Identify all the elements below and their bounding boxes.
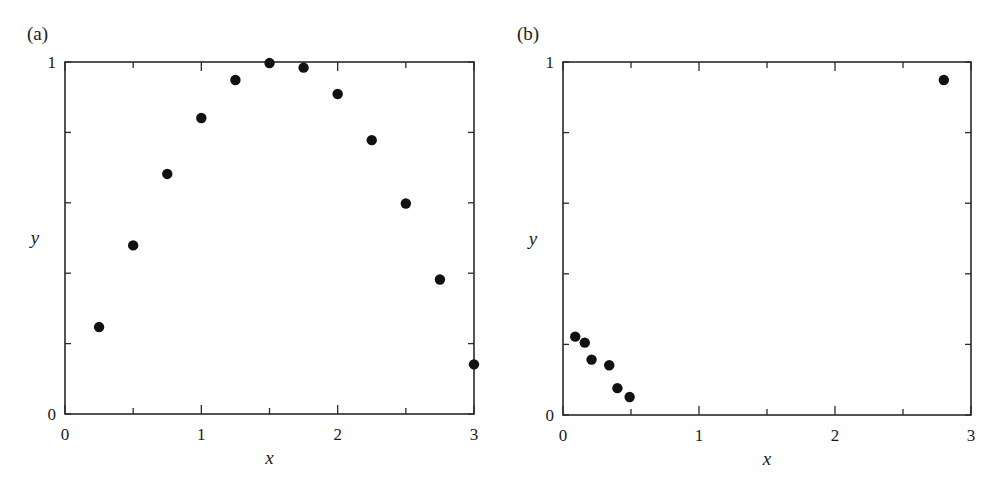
y-axis-label: y [527,228,538,249]
x-tick-label: 0 [559,426,568,445]
scatter-plot-a: 012301xy [0,0,498,481]
scatter-plot-b: 012301xy [498,0,996,481]
data-point [196,113,206,123]
data-point [94,322,104,332]
data-point [332,89,342,99]
plot-frame [65,62,474,414]
data-point [580,337,590,347]
x-tick-label: 2 [333,425,342,444]
y-tick-label: 0 [48,405,57,424]
data-point [230,75,240,85]
x-tick-label: 3 [470,425,479,444]
panel-a: (a) 012301xy [0,0,498,481]
panel-b: (b) 012301xy [498,0,996,481]
x-tick-label: 1 [695,426,704,445]
y-tick-label: 1 [546,53,555,72]
y-axis-label: y [29,227,40,248]
data-point [586,354,596,364]
data-point [604,360,614,370]
plot-frame [563,62,971,415]
x-tick-label: 0 [61,425,70,444]
x-axis-label: x [762,448,772,469]
x-tick-label: 1 [197,425,206,444]
y-tick-label: 1 [48,53,57,72]
data-point [469,359,479,369]
data-point [435,274,445,284]
data-point [367,135,377,145]
data-point [612,383,622,393]
data-point [401,198,411,208]
x-axis-label: x [264,447,274,468]
data-point [570,331,580,341]
data-point [264,58,274,68]
data-point [624,392,634,402]
data-point [298,62,308,72]
data-point [939,75,949,85]
x-tick-label: 2 [831,426,840,445]
data-point [128,240,138,250]
y-tick-label: 0 [546,406,555,425]
data-point [162,169,172,179]
x-tick-label: 3 [967,426,976,445]
